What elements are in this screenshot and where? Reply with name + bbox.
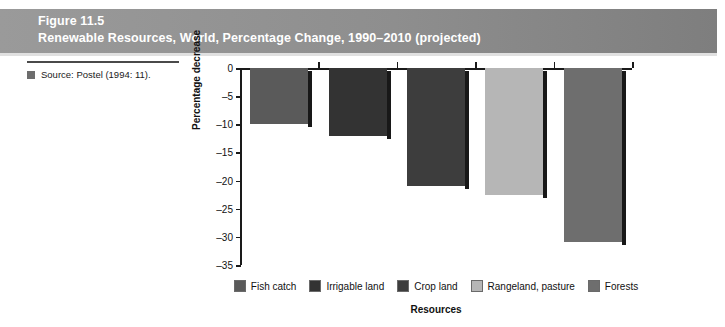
x-axis-tick bbox=[632, 62, 634, 68]
y-axis-tick bbox=[236, 124, 241, 126]
bar-shadow bbox=[308, 71, 312, 127]
legend-label: Forests bbox=[605, 281, 638, 292]
y-axis-tick bbox=[236, 181, 241, 183]
x-axis-tick bbox=[554, 62, 556, 68]
y-axis-tick bbox=[236, 96, 241, 98]
bar-fill bbox=[564, 68, 622, 242]
legend-label: Irrigable land bbox=[326, 281, 384, 292]
y-axis-tick-label: 0 bbox=[207, 63, 233, 74]
y-axis-tick-label: –35 bbox=[207, 260, 233, 271]
axis-frame bbox=[240, 68, 632, 265]
bar-fill bbox=[329, 68, 387, 136]
legend-item-irrigable-land[interactable]: Irrigable land bbox=[309, 280, 384, 292]
legend-item-fish-catch[interactable]: Fish catch bbox=[234, 280, 297, 292]
legend-item-forests[interactable]: Forests bbox=[588, 280, 638, 292]
bar-fill bbox=[250, 68, 308, 124]
bar-crop-land[interactable] bbox=[407, 68, 465, 186]
source-text: Source: Postel (1994: 11). bbox=[41, 69, 151, 80]
bar-rangeland-pasture[interactable] bbox=[485, 68, 543, 195]
y-axis-tick bbox=[236, 237, 241, 239]
y-axis-title: Percentage decrease bbox=[191, 30, 202, 130]
legend-label: Rangeland, pasture bbox=[488, 281, 575, 292]
y-axis-tick-labels: 0–5–10–15–20–25–30–35 bbox=[203, 58, 233, 323]
bar-shadow bbox=[387, 71, 391, 139]
y-axis-tick-label: –25 bbox=[207, 203, 233, 214]
bar-forests[interactable] bbox=[564, 68, 622, 242]
x-axis-tick bbox=[397, 62, 399, 68]
bar-irrigable-land[interactable] bbox=[329, 68, 387, 136]
bar-fill bbox=[485, 68, 543, 195]
figure-number: Figure 11.5 bbox=[38, 14, 104, 28]
bar-shadow bbox=[543, 71, 547, 198]
y-axis-tick-label: –10 bbox=[207, 119, 233, 130]
source-note: Source: Postel (1994: 11). bbox=[27, 61, 182, 80]
legend-swatch bbox=[234, 280, 246, 292]
y-axis-tick bbox=[236, 68, 241, 70]
source-divider bbox=[27, 61, 179, 63]
y-axis-tick bbox=[236, 265, 241, 267]
y-axis-tick bbox=[236, 209, 241, 211]
chart-legend: Fish catchIrrigable landCrop landRangela… bbox=[240, 280, 632, 292]
y-axis-tick-label: –30 bbox=[207, 231, 233, 242]
bar-shadow bbox=[465, 71, 469, 189]
legend-swatch bbox=[309, 280, 321, 292]
legend-item-rangeland-pasture[interactable]: Rangeland, pasture bbox=[471, 280, 575, 292]
source-row: Source: Postel (1994: 11). bbox=[27, 69, 182, 80]
legend-label: Crop land bbox=[414, 281, 457, 292]
bar-fish-catch[interactable] bbox=[250, 68, 308, 124]
x-axis-tick bbox=[475, 62, 477, 68]
legend-label: Fish catch bbox=[251, 281, 297, 292]
bar-shadow bbox=[622, 71, 626, 245]
y-axis-tick bbox=[236, 152, 241, 154]
y-axis-tick-label: –15 bbox=[207, 147, 233, 158]
legend-swatch bbox=[397, 280, 409, 292]
x-axis-title: Resources bbox=[240, 304, 632, 315]
legend-item-crop-land[interactable]: Crop land bbox=[397, 280, 457, 292]
figure-title: Renewable Resources, World, Percentage C… bbox=[38, 31, 481, 45]
bar-fill bbox=[407, 68, 465, 186]
y-axis-tick-label: –20 bbox=[207, 175, 233, 186]
bar-chart: Percentage decrease 0–5–10–15–20–25–30–3… bbox=[195, 58, 655, 323]
square-bullet-icon bbox=[27, 71, 35, 79]
figure-header-band: Figure 11.5 Renewable Resources, World, … bbox=[0, 9, 717, 53]
y-axis-tick-label: –5 bbox=[207, 91, 233, 102]
x-axis-tick bbox=[318, 62, 320, 68]
legend-swatch bbox=[588, 280, 600, 292]
legend-swatch bbox=[471, 280, 483, 292]
